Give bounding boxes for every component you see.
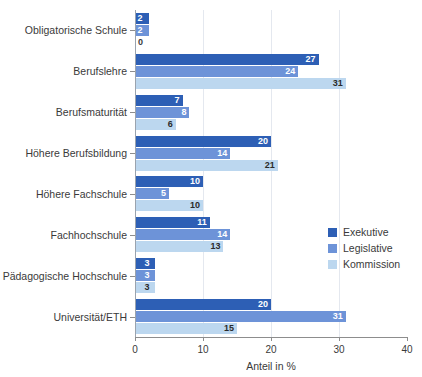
bar-row: 6 <box>135 119 407 130</box>
x-axis-tick <box>339 337 340 341</box>
x-axis-tick-label: 0 <box>132 344 138 356</box>
bar-row: 24 <box>135 66 407 77</box>
bar[interactable] <box>135 160 278 171</box>
bar-row: 8 <box>135 107 407 118</box>
bar-group: 220 <box>135 13 407 49</box>
x-axis-tick <box>271 337 272 341</box>
legend-swatch <box>328 244 337 253</box>
bar-value-label: 24 <box>282 65 295 77</box>
bar-row: 10 <box>135 200 407 211</box>
bar-chart: 22027243178620142110510111413333203115 O… <box>0 0 422 377</box>
bar-value-label: 13 <box>207 240 220 252</box>
bar-row: 3 <box>135 282 407 293</box>
legend-item[interactable]: Kommission <box>328 257 400 271</box>
bar-row: 27 <box>135 54 407 65</box>
bar-group: 786 <box>135 95 407 131</box>
bar-row: 20 <box>135 299 407 310</box>
bar[interactable] <box>135 54 319 65</box>
legend-label: Kommission <box>343 258 400 270</box>
bar-row: 31 <box>135 311 407 322</box>
category-label: Höhere Berufsbildung <box>25 147 127 159</box>
category-tick <box>130 112 135 113</box>
category-label: Pädagogische Hochschule <box>3 270 127 282</box>
bar-row: 5 <box>135 188 407 199</box>
y-axis-line <box>135 10 136 337</box>
bar-value-label: 27 <box>303 53 316 65</box>
x-axis-tick-label: 20 <box>265 344 276 356</box>
x-axis-tick <box>203 337 204 341</box>
bar-value-label: 31 <box>330 77 343 89</box>
x-axis-tick <box>407 337 408 341</box>
category-label: Berufsmaturität <box>56 106 127 118</box>
bar-group: 10510 <box>135 176 407 212</box>
bar-value-label: 14 <box>214 228 227 240</box>
bar-value-label: 3 <box>144 281 149 293</box>
category-label: Obligatorische Schule <box>25 24 127 36</box>
bar-row: 15 <box>135 323 407 334</box>
legend-swatch <box>328 228 337 237</box>
bar-row: 7 <box>135 95 407 106</box>
category-tick <box>130 317 135 318</box>
bar-value-label: 31 <box>330 310 343 322</box>
category-tick <box>130 30 135 31</box>
bar-value-label: 8 <box>173 106 186 118</box>
bar-row: 21 <box>135 160 407 171</box>
bar-row: 14 <box>135 148 407 159</box>
bar-value-label: 14 <box>214 147 227 159</box>
category-tick <box>130 276 135 277</box>
bar-group: 201421 <box>135 136 407 172</box>
bar-row: 2 <box>135 13 407 24</box>
legend-label: Legislative <box>343 242 393 254</box>
bar-value-label: 3 <box>144 257 149 269</box>
category-tick <box>130 153 135 154</box>
bar-value-label: 0 <box>138 36 143 48</box>
legend-label: Exekutive <box>343 226 389 238</box>
bar-row: 20 <box>135 136 407 147</box>
bar-value-label: 10 <box>187 175 200 187</box>
category-tick <box>130 235 135 236</box>
bar[interactable] <box>135 66 298 77</box>
x-axis-tick-label: 10 <box>197 344 208 356</box>
category-tick <box>130 194 135 195</box>
bar-value-label: 21 <box>262 159 275 171</box>
bar-value-label: 20 <box>255 298 268 310</box>
bar-row: 0 <box>135 37 407 48</box>
x-axis-tick-label: 40 <box>401 344 412 356</box>
bar[interactable] <box>135 311 346 322</box>
legend-swatch <box>328 260 337 269</box>
bar[interactable] <box>135 299 271 310</box>
x-axis-tick-label: 30 <box>333 344 344 356</box>
bar-value-label: 15 <box>221 322 234 334</box>
category-label: Universität/ETH <box>53 311 127 323</box>
bar-value-label: 11 <box>194 216 207 228</box>
bar-value-label: 2 <box>138 12 143 24</box>
x-axis-title: Anteil in % <box>135 360 407 372</box>
bar-value-label: 6 <box>160 118 173 130</box>
bar-value-label: 7 <box>167 94 180 106</box>
category-label: Höhere Fachschule <box>36 188 127 200</box>
bar-group: 272431 <box>135 54 407 90</box>
bar-row: 10 <box>135 176 407 187</box>
x-axis-tick <box>135 337 136 341</box>
chart-legend: ExekutiveLegislativeKommission <box>328 225 400 273</box>
legend-item[interactable]: Legislative <box>328 241 400 255</box>
bar[interactable] <box>135 78 346 89</box>
plot-area: 22027243178620142110510111413333203115 <box>135 10 407 337</box>
bar-value-label: 10 <box>187 199 200 211</box>
category-label: Fachhochschule <box>51 229 127 241</box>
bar-row: 2 <box>135 25 407 36</box>
category-label: Berufslehre <box>73 65 127 77</box>
bar-row: 31 <box>135 78 407 89</box>
legend-item[interactable]: Exekutive <box>328 225 400 239</box>
bar[interactable] <box>135 136 271 147</box>
bar-value-label: 20 <box>255 135 268 147</box>
bar-value-label: 3 <box>144 269 149 281</box>
category-tick <box>130 71 135 72</box>
bar-group: 203115 <box>135 299 407 335</box>
bar-value-label: 2 <box>138 24 143 36</box>
bar-value-label: 5 <box>153 187 166 199</box>
